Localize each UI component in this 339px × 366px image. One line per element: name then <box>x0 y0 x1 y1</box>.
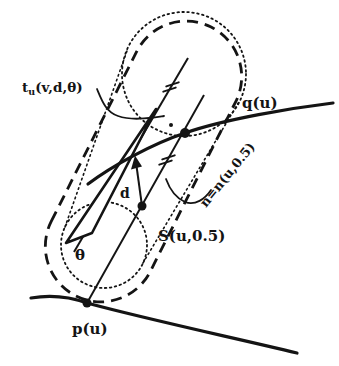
point-small <box>169 123 173 127</box>
p-curve-label: p(u) <box>72 320 108 338</box>
dotted-circle-bottom <box>61 202 147 288</box>
distance-label: d <box>120 185 130 201</box>
q-curve-label: q(u) <box>242 94 278 112</box>
point-s <box>138 202 147 211</box>
figure-canvas: tu(v,d,θ) q(u) n=n(u,0.5) S(u,0.5) d θ p… <box>0 0 339 366</box>
dashed-capsule <box>26 2 260 321</box>
p-curve <box>31 296 297 353</box>
point-q <box>180 128 190 138</box>
skin-point-label: S(u,0.5) <box>158 227 225 245</box>
point-p <box>83 299 92 308</box>
angle-wedge <box>66 109 156 243</box>
geometry-diagram: tu(v,d,θ) q(u) n=n(u,0.5) S(u,0.5) d θ p… <box>0 0 339 366</box>
tangent-label: tu(v,d,θ) <box>22 79 83 97</box>
angle-label: θ <box>75 246 85 264</box>
distance-arrow-shaft <box>137 166 143 206</box>
normal-label: n=n(u,0.5) <box>197 139 258 210</box>
